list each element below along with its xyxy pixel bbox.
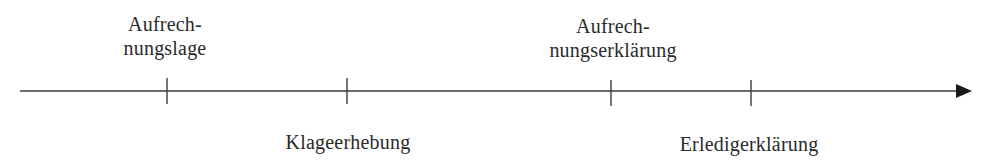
label-erledigerklaerung: Erledigerklärung	[680, 132, 819, 156]
label-aufrechnungserklaerung: Aufrech- nungserklärung	[549, 14, 676, 62]
label-line: Klageerhebung	[286, 130, 411, 154]
label-line: nungserklärung	[549, 38, 676, 62]
label-klageerhebung: Klageerhebung	[286, 130, 411, 154]
arrowhead-icon	[956, 84, 972, 98]
label-line: Erledigerklärung	[680, 132, 819, 156]
label-line: nungslage	[124, 36, 207, 60]
label-aufrechnungslage: Aufrech- nungslage	[124, 12, 207, 60]
label-line: Aufrech-	[549, 14, 676, 38]
label-line: Aufrech-	[124, 12, 207, 36]
